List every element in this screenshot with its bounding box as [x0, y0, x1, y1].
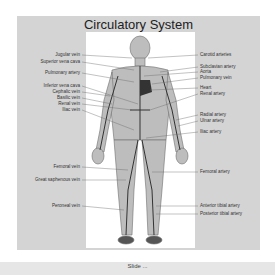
body-illustration: [0, 0, 275, 275]
right-arm: [166, 72, 184, 152]
label-iliac-vein: Iliac vein: [12, 107, 80, 113]
label-superior-vena-cava: Superior vena cava: [12, 59, 80, 65]
right-leg: [142, 140, 166, 235]
label-femoral-artery: Femoral artery: [200, 169, 230, 175]
label-great-saphenous-vein: Great saphenous vein: [12, 177, 80, 183]
footer-caption: Slide ...: [0, 263, 275, 269]
label-pulmonary-vein: Pulmonary vein: [200, 75, 232, 81]
label-anterior-tibial-artery: Anterior tibial artery: [200, 203, 240, 209]
left-leg: [114, 140, 138, 235]
left-arm: [96, 72, 114, 152]
label-femoral-vein: Femoral vein: [12, 164, 80, 170]
label-renal-artery: Renal artery: [200, 91, 225, 97]
label-ulnar-artery: Ulnar artery: [200, 118, 224, 124]
label-pulmonary-artery: Pulmonary artery: [12, 70, 80, 76]
neck: [135, 58, 145, 66]
label-peroneal-vein: Peroneal vein: [12, 203, 80, 209]
right-foot: [146, 236, 162, 244]
label-jugular-vein: Jugular vein: [12, 52, 80, 58]
footer-bar: Slide ...: [0, 262, 275, 275]
head: [130, 36, 150, 60]
label-carotid-arteries: Carotid arteries: [200, 52, 231, 58]
right-hand: [176, 148, 188, 164]
label-posterior-tibial-artery: Posterior tibial artery: [200, 211, 242, 217]
left-hand: [92, 148, 104, 164]
label-iliac-artery: Iliac artery: [200, 129, 221, 135]
left-foot: [118, 236, 134, 244]
